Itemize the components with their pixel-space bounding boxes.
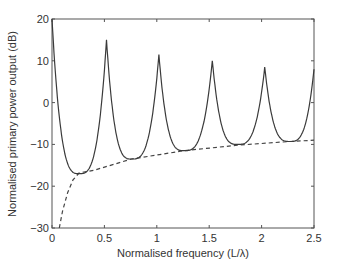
y-tick-label: −20	[30, 180, 49, 192]
chart: 00.511.522.5 −30−20−1001020 Normalised f…	[0, 0, 337, 268]
x-tick-label: 2.5	[306, 232, 321, 244]
x-tick-labels: 00.511.522.5	[49, 232, 322, 244]
y-tick-label: −30	[30, 222, 49, 234]
x-tick-label: 0	[49, 232, 55, 244]
x-tick-label: 2	[259, 232, 265, 244]
y-tick-label: 10	[37, 55, 49, 67]
y-axis-label: Normalised primary power output (dB)	[6, 31, 18, 217]
x-tick-label: 1.5	[202, 232, 217, 244]
x-axis-label: Normalised frequency (L/λ)	[117, 247, 249, 259]
x-tick-label: 1	[154, 232, 160, 244]
y-tick-label: 20	[37, 13, 49, 25]
plot-area	[52, 19, 314, 228]
y-tick-label: −10	[30, 138, 49, 150]
y-tick-label: 0	[43, 97, 49, 109]
x-tick-label: 0.5	[97, 232, 112, 244]
y-tick-labels: −30−20−1001020	[30, 13, 49, 234]
